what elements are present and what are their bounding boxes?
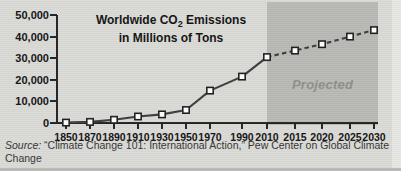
x-tick-1950 <box>185 123 187 129</box>
data-point-1910 <box>135 113 141 119</box>
source-text: “Climate Change 101: International Actio… <box>5 139 389 164</box>
chart-figure: Projected 010,00020,00030,00040,00050,00… <box>0 0 401 171</box>
x-tick-2020 <box>321 123 323 129</box>
chart-title-text-a: Worldwide CO <box>96 13 178 27</box>
data-point-1950 <box>183 107 189 113</box>
bottom-divider <box>0 168 401 171</box>
source-label: Source: <box>5 139 41 151</box>
historical-line <box>66 57 267 123</box>
x-tick-1890 <box>113 123 115 129</box>
data-point-2010 <box>264 54 270 60</box>
data-point-2025 <box>347 33 353 39</box>
data-point-1990 <box>239 73 245 79</box>
x-tick-2025 <box>349 123 351 129</box>
chart-title-text-b: Emissions <box>183 13 246 27</box>
chart-title-line-2: in Millions of Tons <box>119 31 223 45</box>
page-right-margin <box>392 0 401 171</box>
data-point-2020 <box>319 41 325 47</box>
data-point-1970 <box>207 87 213 93</box>
y-axis-label-50000: 50,000 <box>15 9 49 21</box>
x-tick-2015 <box>294 123 296 129</box>
y-axis-label-20000: 20,000 <box>15 74 49 86</box>
chart-title: Worldwide CO2 Emissions in Millions of T… <box>62 13 280 45</box>
x-tick-1910 <box>137 123 139 129</box>
data-point-2030 <box>371 27 377 33</box>
y-axis-label-30000: 30,000 <box>15 52 49 64</box>
y-axis-label-40000: 40,000 <box>15 31 49 43</box>
x-tick-1930 <box>161 123 163 129</box>
data-point-2015 <box>292 47 298 53</box>
x-tick-2030 <box>373 123 375 129</box>
y-axis-label-0: 0 <box>43 117 49 129</box>
x-tick-2010 <box>266 123 268 129</box>
source-note: Source: “Climate Change 101: Internation… <box>5 139 391 165</box>
y-axis-label-10000: 10,000 <box>15 95 49 107</box>
data-point-1850 <box>63 119 69 125</box>
data-point-1890 <box>111 117 117 123</box>
x-tick-1970 <box>209 123 211 129</box>
data-point-1930 <box>159 111 165 117</box>
x-tick-1990 <box>241 123 243 129</box>
data-point-1870 <box>87 119 93 125</box>
chart-title-line-1: Worldwide CO2 Emissions <box>96 13 246 27</box>
